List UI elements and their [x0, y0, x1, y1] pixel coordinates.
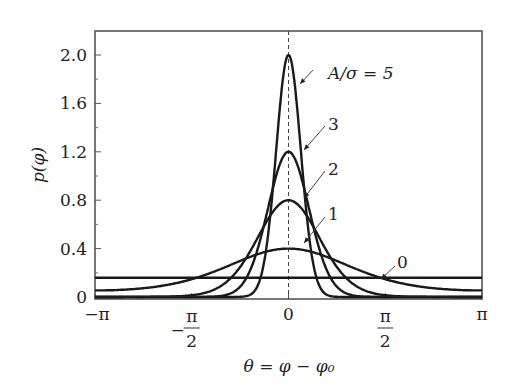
y-tick-label: 0.4	[60, 239, 87, 259]
svg-text:π: π	[380, 306, 391, 326]
series-annotation: 3	[328, 114, 339, 134]
annotations: A/σ = 53210	[300, 63, 408, 279]
svg-text:2: 2	[380, 331, 391, 351]
svg-text:2: 2	[186, 331, 197, 351]
curves	[95, 55, 482, 297]
chart: 00.40.81.21.62.0 A/σ = 53210 −π0π−π2π2θ …	[0, 0, 514, 386]
y-tick-label: 0.8	[60, 190, 87, 210]
y-tick-label: 2.0	[60, 45, 87, 65]
x-tick-label: 0	[283, 304, 294, 324]
series-annotation: 2	[328, 159, 339, 179]
x-tick-label: −π	[84, 304, 109, 324]
x-axis-label: θ = φ − φ₀	[244, 356, 335, 376]
svg-text:−: −	[171, 320, 185, 340]
plot-frame: 00.40.81.21.62.0	[60, 31, 482, 307]
series-annotation: 0	[397, 252, 408, 272]
svg-text:π: π	[186, 306, 197, 326]
axis-labels: −π0π−π2π2θ = φ − φ₀p(φ)	[28, 147, 488, 376]
y-axis-label: p(φ)	[28, 147, 48, 183]
y-tick-label: 1.6	[60, 93, 87, 113]
y-tick-label: 1.2	[60, 142, 87, 162]
series-annotation: 1	[328, 204, 339, 224]
x-tick-label: π	[476, 304, 487, 324]
series-annotation: A/σ = 5	[326, 63, 393, 83]
series-curve	[95, 55, 482, 297]
